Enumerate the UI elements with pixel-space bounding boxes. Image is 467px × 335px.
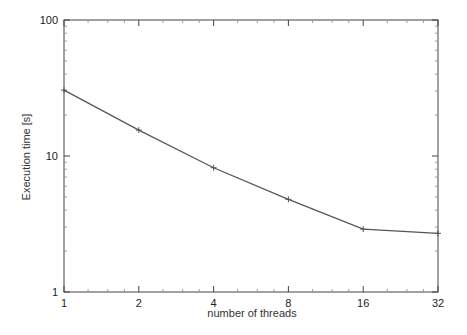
x-tick-label: 2 bbox=[136, 297, 142, 309]
plus-marker-icon bbox=[136, 127, 142, 133]
y-tick-label: 10 bbox=[46, 150, 58, 162]
plus-marker-icon bbox=[61, 87, 67, 93]
series-line bbox=[64, 90, 438, 233]
y-axis: 110100 bbox=[40, 14, 438, 298]
line-chart: 110100 12481632 number of threads Execut… bbox=[0, 0, 467, 335]
plus-marker-icon bbox=[285, 196, 291, 202]
plot-border bbox=[64, 20, 438, 292]
data-series bbox=[61, 87, 441, 236]
x-tick-label: 16 bbox=[357, 297, 369, 309]
plus-marker-icon bbox=[435, 230, 441, 236]
x-tick-label: 32 bbox=[432, 297, 444, 309]
x-tick-label: 1 bbox=[61, 297, 67, 309]
y-tick-label: 100 bbox=[40, 14, 58, 26]
plus-marker-icon bbox=[360, 226, 366, 232]
y-axis-title: Execution time [s] bbox=[20, 114, 32, 201]
x-axis-title: number of threads bbox=[207, 307, 297, 319]
x-axis: 12481632 bbox=[61, 20, 444, 309]
plus-marker-icon bbox=[211, 165, 217, 171]
y-tick-label: 1 bbox=[52, 286, 58, 298]
plot-frame bbox=[64, 20, 438, 292]
